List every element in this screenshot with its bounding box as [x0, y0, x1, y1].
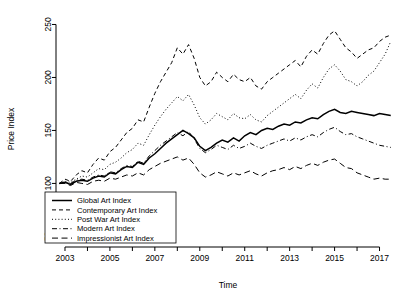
x-tick-label: 2017 — [370, 253, 389, 263]
x-tick-label: 2015 — [325, 253, 344, 263]
series-line-contemporary-art-index — [59, 31, 390, 184]
x-tick-label: 2007 — [145, 253, 164, 263]
legend-label: Contemporary Art Index — [77, 206, 157, 215]
legend-label: Impressionist Art Index — [77, 234, 154, 243]
price-index-line-chart: 50100150200250 2003200520072009201120132… — [0, 0, 400, 298]
series-line-global-art-index — [59, 109, 390, 184]
x-tick-label: 2005 — [100, 253, 119, 263]
series-line-impressionist-art-index — [59, 157, 390, 186]
y-tick-label: 100 — [43, 176, 53, 190]
legend-label: Post War Art Index — [77, 215, 140, 224]
legend-label: Modern Art Index — [77, 224, 135, 233]
y-tick-label: 250 — [43, 17, 53, 31]
x-tick-label: 2009 — [190, 253, 209, 263]
y-tick-label: 150 — [43, 123, 53, 137]
y-tick-label: 200 — [43, 70, 53, 84]
x-tick-label: 2003 — [56, 253, 75, 263]
x-axis-title: Time — [219, 280, 238, 290]
x-axis: 20032005200720092011201320152017 — [56, 247, 390, 263]
chart-container: 50100150200250 2003200520072009201120132… — [0, 0, 400, 298]
x-tick-label: 2011 — [236, 253, 255, 263]
series-layer — [59, 31, 390, 186]
chart-legend: Global Art IndexContemporary Art IndexPo… — [45, 192, 176, 243]
series-line-modern-art-index — [59, 127, 390, 183]
y-axis-title: Price Index — [6, 107, 16, 150]
x-tick-label: 2013 — [280, 253, 299, 263]
legend-label: Global Art Index — [77, 196, 131, 205]
